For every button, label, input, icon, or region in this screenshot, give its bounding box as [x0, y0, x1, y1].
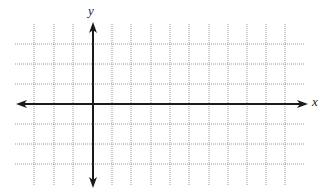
y-axis-label: y — [88, 4, 94, 17]
coordinate-plane — [0, 0, 328, 194]
axes — [16, 22, 308, 188]
x-axis-label: x — [312, 95, 318, 108]
